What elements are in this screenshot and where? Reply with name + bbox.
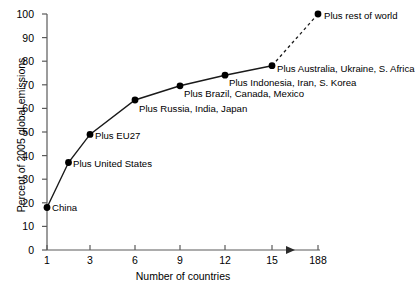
plot-area	[0, 0, 415, 290]
data-point-rest-of-world[interactable]	[315, 11, 322, 18]
x-tick-marks	[47, 245, 318, 250]
point-label-russia-india-japan: Plus Russia, India, Japan	[139, 103, 247, 114]
data-point-china[interactable]	[44, 204, 51, 211]
point-label-china: China	[52, 202, 77, 213]
data-point-indonesia-iran-skorea[interactable]	[222, 72, 229, 79]
data-point-united-states[interactable]	[65, 159, 72, 166]
y-tick-marks	[42, 14, 47, 250]
point-label-australia-ukraine-safrica: Plus Australia, Ukraine, S. Africa	[277, 63, 415, 74]
axis-break-arrow-icon	[286, 246, 295, 254]
point-label-united-states: Plus United States	[73, 158, 152, 169]
data-point-australia-ukraine-safrica[interactable]	[269, 62, 276, 69]
point-label-indonesia-iran-skorea: Plus Indonesia, Iran, S. Korea	[229, 77, 356, 88]
data-line-dashed	[272, 14, 318, 66]
point-label-rest-of-world: Plus rest of world	[324, 10, 398, 21]
data-point-eu27[interactable]	[87, 131, 94, 138]
point-label-eu27: Plus EU27	[95, 130, 140, 141]
chart-figure: Percent of 2005 global emissions Number …	[0, 0, 415, 290]
data-point-russia-india-japan[interactable]	[132, 97, 139, 104]
data-point-brazil-canada-mexico[interactable]	[177, 82, 184, 89]
point-label-brazil-canada-mexico: Plus Brazil, Canada, Mexico	[184, 88, 304, 99]
